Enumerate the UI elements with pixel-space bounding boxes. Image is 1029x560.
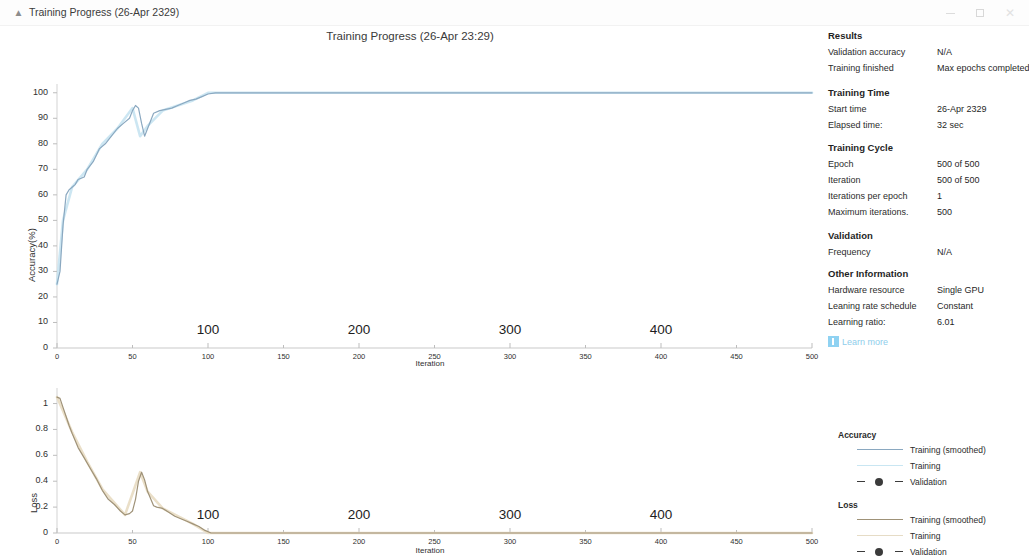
legend-swatch-loss-0 [857, 515, 903, 525]
maximize-button[interactable] [965, 1, 995, 25]
loss-curve-canvas [0, 378, 820, 560]
close-icon[interactable]: ✕ [995, 1, 1025, 25]
info-section-heading-training-time: Training Time [828, 87, 890, 98]
legend-item-accuracy-2: Validation [857, 477, 947, 487]
accuracy-y-tick: 70 [14, 163, 48, 173]
legend-heading-accuracy: Accuracy [838, 430, 876, 440]
loss-y-tick: 0 [14, 527, 48, 537]
legend-dash-left-icon [857, 481, 865, 482]
legend-item-accuracy-1: Training [857, 461, 940, 471]
loss-x-tick: 100 [192, 537, 224, 546]
accuracy-y-tick: 60 [14, 189, 48, 199]
loss-x-big-label: 300 [485, 507, 535, 522]
window-controls: ✕ [935, 0, 1025, 26]
loss-x-tick: 200 [343, 537, 375, 546]
accuracy-x-tick: 150 [268, 352, 300, 361]
info-label-iteration: Iteration [828, 175, 861, 185]
accuracy-y-tick: 40 [14, 240, 48, 250]
minimize-button[interactable] [935, 1, 965, 25]
accuracy-y-tick: 30 [14, 265, 48, 275]
chart-icon: ▲ [13, 7, 24, 18]
info-value-validation-accuracy: N/A [937, 47, 952, 57]
loss-x-tick: 450 [721, 537, 753, 546]
legend-label-accuracy-0: Training (smoothed) [910, 445, 986, 455]
loss-x-tick: 350 [570, 537, 602, 546]
accuracy-plot: Accuracy(%) 0102030405060708090100 05010… [0, 52, 820, 372]
legend-marker-icon [875, 548, 883, 556]
info-label-leaning-rate-schedule: Leaning rate schedule [828, 301, 917, 311]
accuracy-x-tick: 50 [117, 352, 149, 361]
loss-y-tick: 0.4 [14, 475, 48, 485]
loss-x-tick: 500 [796, 537, 828, 546]
page-title: Training Progress (26-Apr 23:29) [0, 30, 820, 42]
learn-more-link[interactable]: Learn more [828, 336, 888, 347]
legend-item-loss-0: Training (smoothed) [857, 515, 986, 525]
info-label-maximum-iterations: Maximum iterations. [828, 207, 909, 217]
legend-label-loss-1: Training [910, 531, 940, 541]
accuracy-x-tick: 500 [796, 352, 828, 361]
accuracy-x-axis-label: Iteration [380, 359, 480, 368]
loss-y-tick: 0.8 [14, 423, 48, 433]
loss-y-tick: 1 [14, 398, 48, 408]
loss-y-tick: 0.6 [14, 449, 48, 459]
legend-dash-left-icon [857, 551, 865, 552]
learn-more-label: Learn more [842, 337, 888, 347]
info-value-epoch: 500 of 500 [937, 159, 980, 169]
loss-x-big-label: 400 [636, 507, 686, 522]
legend-line-icon [857, 535, 903, 536]
accuracy-x-tick: 300 [494, 352, 526, 361]
legend-dash-right-icon [895, 551, 903, 552]
info-label-hardware-resource: Hardware resource [828, 285, 905, 295]
legend-label-loss-2: Validation [910, 547, 947, 557]
legend-item-loss-1: Training [857, 531, 940, 541]
info-label-start-time: Start time [828, 104, 867, 114]
info-label-validation-accuracy: Validation accuracy [828, 47, 905, 57]
legend-heading-loss: Loss [838, 500, 858, 510]
accuracy-x-tick: 200 [343, 352, 375, 361]
info-label-elapsed-time: Elapsed time: [828, 120, 883, 130]
accuracy-y-tick: 10 [14, 316, 48, 326]
info-value-training-finished: Max epochs completed [937, 63, 1029, 73]
info-value-iterations-per-epoch: 1 [937, 191, 942, 201]
legend-line-icon [857, 519, 903, 520]
window-title: Training Progress (26-Apr 2329) [29, 6, 179, 18]
accuracy-x-big-label: 400 [636, 322, 686, 337]
info-value-start-time: 26-Apr 2329 [937, 104, 987, 114]
loss-x-tick: 150 [268, 537, 300, 546]
loss-x-big-label: 200 [334, 507, 384, 522]
info-label-frequency: Frequency [828, 247, 871, 257]
info-icon [828, 336, 839, 347]
legend-marker-icon [875, 478, 883, 486]
training-progress-window: ▲ Training Progress (26-Apr 2329) ✕ Trai… [0, 0, 1029, 560]
info-label-training-finished: Training finished [828, 63, 894, 73]
info-label-epoch: Epoch [828, 159, 854, 169]
info-section-heading-training-cycle: Training Cycle [828, 142, 893, 153]
info-value-iteration: 500 of 500 [937, 175, 980, 185]
legend-swatch-accuracy-1 [857, 461, 903, 471]
accuracy-x-tick: 350 [570, 352, 602, 361]
accuracy-x-big-label: 100 [183, 322, 233, 337]
accuracy-x-tick: 100 [192, 352, 224, 361]
accuracy-x-tick: 450 [721, 352, 753, 361]
info-section-heading-results: Results [828, 30, 862, 41]
info-value-leaning-rate-schedule: Constant [937, 301, 973, 311]
loss-x-tick: 400 [645, 537, 677, 546]
info-value-hardware-resource: Single GPU [937, 285, 984, 295]
legend-line-icon [857, 449, 903, 450]
legend-swatch-loss-1 [857, 531, 903, 541]
legend-label-accuracy-1: Training [910, 461, 940, 471]
legend-item-loss-2: Validation [857, 547, 947, 557]
legend-label-loss-0: Training (smoothed) [910, 515, 986, 525]
loss-x-axis-label: Iteration [380, 546, 480, 555]
accuracy-y-tick: 100 [14, 87, 48, 97]
accuracy-curve-canvas [0, 52, 820, 372]
legend-label-accuracy-2: Validation [910, 477, 947, 487]
accuracy-x-tick: 400 [645, 352, 677, 361]
accuracy-y-tick: 20 [14, 291, 48, 301]
legend-swatch-accuracy-2 [857, 477, 903, 487]
info-label-learning-ratio: Learning ratio: [828, 317, 886, 327]
accuracy-y-tick: 50 [14, 214, 48, 224]
info-value-learning-ratio: 6.01 [937, 317, 955, 327]
accuracy-y-tick: 0 [14, 342, 48, 352]
accuracy-x-big-label: 300 [485, 322, 535, 337]
